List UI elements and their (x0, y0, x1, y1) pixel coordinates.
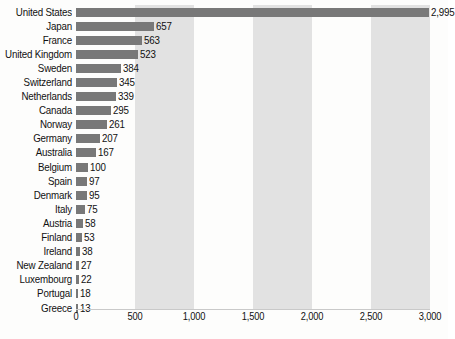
category-label: Canada (5, 105, 72, 116)
category-label: Luxembourg (5, 274, 72, 285)
category-label: Portugal (5, 288, 72, 299)
category-label: Germany (5, 133, 72, 144)
bar-value-label: 295 (113, 105, 129, 116)
x-axis: 05001,0001,5002,0002,5003,000 (0, 311, 448, 331)
bar (76, 22, 154, 31)
bar-container: 167 (76, 146, 448, 160)
bar-row: United Kingdom523 (0, 47, 448, 61)
bar-value-label: 100 (90, 162, 106, 173)
bar-container: 18 (76, 287, 448, 301)
bar-value-label: 167 (98, 147, 114, 158)
category-label: Netherlands (5, 91, 72, 102)
bar (76, 36, 142, 45)
bar-value-label: 95 (89, 190, 99, 201)
bar-value-label: 58 (85, 218, 95, 229)
bar-value-label: 657 (156, 21, 172, 32)
bar-container: 339 (76, 90, 448, 104)
bar-row: Finland53 (0, 231, 448, 245)
bar-row: Norway261 (0, 118, 448, 132)
bar-value-label: 523 (140, 49, 156, 60)
bar-value-label: 207 (102, 133, 118, 144)
bar (76, 50, 138, 59)
x-tick-label: 2,000 (301, 311, 323, 323)
bar-container: 207 (76, 132, 448, 146)
bar-row: Austria58 (0, 216, 448, 230)
bar (76, 163, 88, 172)
category-label: Italy (5, 204, 72, 215)
bar-row: Denmark95 (0, 188, 448, 202)
category-label: Finland (5, 232, 72, 243)
x-axis-line (76, 309, 430, 310)
bar-rows: United States2,995Japan657France563Unite… (0, 5, 448, 315)
category-label: Ireland (5, 246, 72, 257)
bar-row: Germany207 (0, 132, 448, 146)
bar-row: Netherlands339 (0, 90, 448, 104)
bar-row: Luxembourg22 (0, 273, 448, 287)
category-label: United States (5, 7, 72, 18)
bar-row: New Zealand27 (0, 259, 448, 273)
bar (76, 120, 107, 129)
bar-row: Australia167 (0, 146, 448, 160)
bar-row: Italy75 (0, 202, 448, 216)
bar (76, 247, 80, 256)
bar (76, 78, 117, 87)
bar-container: 53 (76, 231, 448, 245)
bar-container: 95 (76, 188, 448, 202)
bar-value-label: 384 (123, 63, 139, 74)
category-label: Norway (5, 119, 72, 130)
bar (76, 8, 429, 17)
bar-value-label: 53 (84, 232, 94, 243)
bar-container: 58 (76, 216, 448, 230)
bar (76, 219, 83, 228)
bar-row: Belgium100 (0, 160, 448, 174)
x-tick-label: 3,000 (419, 311, 441, 323)
bar-value-label: 261 (109, 119, 125, 130)
bar (76, 92, 116, 101)
category-label: France (5, 35, 72, 46)
bar-value-label: 563 (144, 35, 160, 46)
bar-value-label: 339 (118, 91, 134, 102)
bar-value-label: 75 (87, 204, 97, 215)
bar-container: 75 (76, 202, 448, 216)
bar-value-label: 27 (81, 260, 91, 271)
bar-value-label: 97 (89, 176, 99, 187)
bar (76, 205, 85, 214)
bar-container: 563 (76, 33, 448, 47)
x-tick-label: 1,000 (183, 311, 205, 323)
category-label: Belgium (5, 162, 72, 173)
bar-container: 261 (76, 118, 448, 132)
bar-value-label: 38 (82, 246, 92, 257)
bar-container: 657 (76, 19, 448, 33)
bar-row: Sweden384 (0, 61, 448, 75)
bar (76, 134, 100, 143)
category-label: Spain (5, 176, 72, 187)
bar-value-label: 2,995 (431, 7, 455, 18)
bar (76, 177, 87, 186)
bar-container: 345 (76, 75, 448, 89)
bar-container: 2,995 (76, 5, 448, 19)
bar (76, 233, 82, 242)
bar (76, 148, 96, 157)
bar (76, 191, 87, 200)
bar-row: United States2,995 (0, 5, 448, 19)
category-label: Austria (5, 218, 72, 229)
bar-container: 22 (76, 273, 448, 287)
bar-container: 295 (76, 104, 448, 118)
bar-container: 100 (76, 160, 448, 174)
bar-row: Switzerland345 (0, 75, 448, 89)
x-tick-label: 1,500 (242, 311, 264, 323)
bar-value-label: 345 (119, 77, 135, 88)
bar-container: 97 (76, 174, 448, 188)
bar (76, 275, 79, 284)
bar-value-label: 18 (80, 288, 90, 299)
bar-row: Ireland38 (0, 245, 448, 259)
bar-row: Portugal18 (0, 287, 448, 301)
bar-container: 27 (76, 259, 448, 273)
x-tick-label: 2,500 (360, 311, 382, 323)
bar-container: 384 (76, 61, 448, 75)
bar-row: Canada295 (0, 104, 448, 118)
x-tick-label: 500 (128, 311, 143, 323)
x-tick-label: 0 (74, 311, 79, 323)
bar-row: Spain97 (0, 174, 448, 188)
